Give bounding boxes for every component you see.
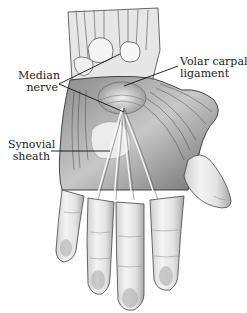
- label-median-nerve-line2: nerve: [18, 82, 58, 94]
- thumb: [184, 155, 231, 208]
- label-synovial-sheath: Synovial sheath: [8, 139, 50, 163]
- label-synovial-sheath-line2: sheath: [8, 151, 50, 163]
- label-median-nerve: Median nerve: [18, 70, 58, 94]
- fingers: [56, 190, 184, 310]
- label-volar-carpal-ligament-line2: ligament: [180, 68, 247, 80]
- label-volar-carpal-ligament: Volar carpal ligament: [180, 56, 247, 80]
